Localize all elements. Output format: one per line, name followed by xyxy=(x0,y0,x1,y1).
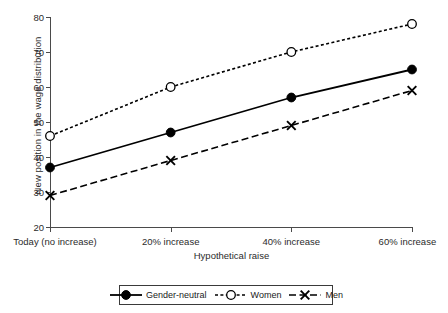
legend-label: Men xyxy=(325,290,343,300)
x-tick-label: 20% increase xyxy=(142,236,200,247)
y-axis-title: New position in the wage distribution xyxy=(32,16,43,216)
x-tick-mark xyxy=(171,228,172,232)
series-layer xyxy=(50,17,413,228)
legend-item-gender-neutral[interactable]: Gender-neutral xyxy=(109,289,207,301)
chart-figure: New position in the wage distribution 20… xyxy=(0,0,448,313)
series-gender-neutral xyxy=(46,65,417,172)
data-point-marker xyxy=(166,156,175,165)
x-tick-mark xyxy=(291,228,292,232)
data-point-marker xyxy=(46,163,55,172)
x-tick-label: Today (no increase) xyxy=(13,236,96,247)
data-point-marker xyxy=(408,65,417,74)
y-tick-label: 40 xyxy=(33,152,44,163)
legend-swatch xyxy=(288,289,322,301)
data-point-marker xyxy=(226,291,235,300)
legend-item-men[interactable]: Men xyxy=(288,289,343,301)
y-tick-label: 30 xyxy=(33,187,44,198)
y-tick-label: 60 xyxy=(33,82,44,93)
plot-area: 20304050607080 Today (no increase)20% in… xyxy=(50,17,413,228)
data-point-marker xyxy=(408,86,417,95)
legend-label: Gender-neutral xyxy=(146,290,207,300)
x-axis-title: Hypothetical raise xyxy=(50,250,413,261)
series-women xyxy=(46,20,417,141)
chart-legend: Gender-neutralWomenMen xyxy=(119,285,333,305)
data-point-marker xyxy=(122,291,131,300)
series-line xyxy=(50,24,412,136)
x-tick-label: 60% increase xyxy=(379,236,437,247)
legend-label: Women xyxy=(251,290,282,300)
data-point-marker xyxy=(46,191,55,200)
y-tick-label: 50 xyxy=(33,117,44,128)
data-point-marker xyxy=(287,121,296,130)
series-line xyxy=(50,70,412,168)
series-men xyxy=(46,86,417,200)
y-tick-label: 20 xyxy=(33,222,44,233)
data-point-marker xyxy=(46,132,55,141)
series-line xyxy=(50,91,412,196)
x-tick-mark xyxy=(412,228,413,232)
data-point-marker xyxy=(166,128,175,137)
data-point-marker xyxy=(287,93,296,102)
y-tick-label: 70 xyxy=(33,47,44,58)
data-point-marker xyxy=(287,48,296,57)
x-tick-mark xyxy=(50,228,51,232)
data-point-marker xyxy=(408,20,417,29)
legend-item-women[interactable]: Women xyxy=(214,289,282,301)
legend-swatch xyxy=(109,289,143,301)
x-tick-label: 40% increase xyxy=(263,236,321,247)
y-tick-label: 80 xyxy=(33,12,44,23)
legend-swatch xyxy=(214,289,248,301)
data-point-marker xyxy=(166,83,175,92)
